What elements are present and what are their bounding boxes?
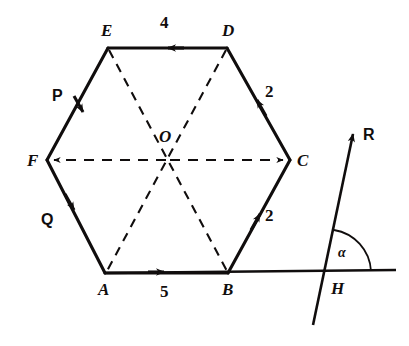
vertex-label-E: E: [101, 22, 112, 39]
vertex-label-O: O: [159, 128, 171, 145]
arrow-dc: [257, 100, 266, 116]
edge-label-bc-magnitude: 2: [265, 207, 274, 224]
edge-fa: [47, 160, 105, 273]
diagram-canvas: E D F C A B O H 4 2 2 5 P Q R α: [0, 0, 409, 346]
edge-label-ab-magnitude: 5: [160, 283, 169, 300]
vertex-label-D: D: [222, 22, 234, 39]
vertex-label-H: H: [331, 280, 344, 297]
angle-label-alpha: α: [338, 246, 346, 260]
vertex-label-F: F: [27, 152, 38, 169]
edge-label-ed-magnitude: 4: [160, 14, 169, 31]
vector-label-Q: Q: [41, 212, 53, 228]
arrow-fa: [65, 194, 74, 210]
arrow-cb: [251, 214, 260, 230]
vector-label-P: P: [52, 88, 63, 104]
vertex-label-C: C: [297, 152, 308, 169]
edge-label-dc-magnitude: 2: [265, 83, 274, 100]
vertex-label-A: A: [98, 281, 109, 298]
vertex-label-B: B: [222, 281, 233, 298]
hexagon-vector-figure: [0, 0, 409, 346]
vector-label-R: R: [363, 127, 375, 143]
